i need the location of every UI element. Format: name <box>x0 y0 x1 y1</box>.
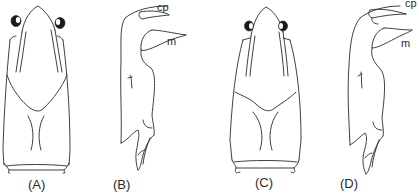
panel-b-drawing <box>121 6 186 170</box>
panel-label-b: (B) <box>113 178 130 191</box>
panel-a-drawing <box>3 6 70 173</box>
annotation-b-m: m <box>167 36 176 47</box>
panel-d-drawing <box>348 6 412 174</box>
panel-label-d: (D) <box>340 177 358 190</box>
panel-label-a: (A) <box>28 178 45 191</box>
annotation-d-cp: cp <box>405 0 417 9</box>
panel-label-c: (C) <box>255 176 273 189</box>
annotation-b-cp: cp <box>157 2 169 13</box>
panel-c-drawing <box>230 7 301 173</box>
morphology-figure: cp m cp m (A) (B) (C) (D) <box>0 0 419 195</box>
annotation-d-m: m <box>401 38 410 49</box>
figure-drawings <box>0 0 419 195</box>
